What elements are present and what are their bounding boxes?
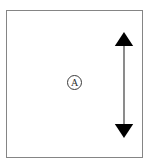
vertical-dimension-arrow-graphic xyxy=(109,30,139,140)
circled-letter-a-label: A xyxy=(67,75,82,90)
figure-root: A xyxy=(0,0,154,168)
vertical-dimension-arrow xyxy=(109,30,139,140)
arrow-head-down-icon xyxy=(115,124,133,138)
arrow-head-up-icon xyxy=(115,32,133,46)
